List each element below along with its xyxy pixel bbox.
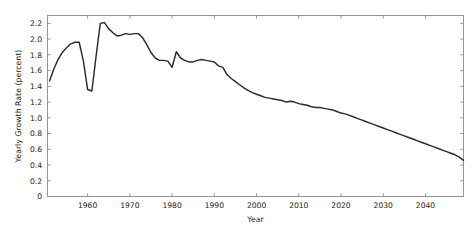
y-tick-label: 0.8 <box>30 129 42 138</box>
y-tick-label: 0 <box>37 192 42 201</box>
y-tick-label: 1.6 <box>30 66 42 75</box>
growth-rate-line-chart: 00.20.40.60.81.01.21.41.61.82.02.2 19601… <box>0 0 476 238</box>
chart-figure: 00.20.40.60.81.01.21.41.61.82.02.2 19601… <box>0 0 476 238</box>
x-tick-label: 2010 <box>289 201 308 210</box>
y-tick-label: 0.2 <box>30 177 42 186</box>
x-tick-label: 2040 <box>416 201 435 210</box>
y-axis-ticks: 00.20.40.60.81.01.21.41.61.82.02.2 <box>30 19 464 201</box>
y-tick-label: 0.4 <box>30 161 42 170</box>
x-tick-label: 2020 <box>331 201 350 210</box>
y-axis-title: Yearly Growth Rate (percent) <box>14 50 23 164</box>
data-series-group <box>50 23 464 161</box>
x-axis-ticks: 196019701980199020002010202020302040 <box>78 16 435 210</box>
y-tick-label: 0.6 <box>30 145 42 154</box>
y-tick-label: 2.2 <box>30 19 42 28</box>
x-tick-label: 1970 <box>120 201 139 210</box>
plot-area-frame <box>48 16 464 197</box>
x-tick-label: 1980 <box>162 201 181 210</box>
x-tick-label: 1960 <box>78 201 97 210</box>
y-tick-label: 2.0 <box>30 35 42 44</box>
x-axis-title: Year <box>246 215 264 224</box>
series-line-yearly-growth-rate <box>50 23 464 161</box>
y-tick-label: 1.2 <box>30 98 42 107</box>
x-tick-label: 2000 <box>247 201 266 210</box>
y-tick-label: 1.8 <box>30 51 42 60</box>
y-tick-label: 1.4 <box>30 82 42 91</box>
x-tick-label: 1990 <box>205 201 224 210</box>
y-tick-label: 1.0 <box>30 114 42 123</box>
x-tick-label: 2030 <box>374 201 393 210</box>
